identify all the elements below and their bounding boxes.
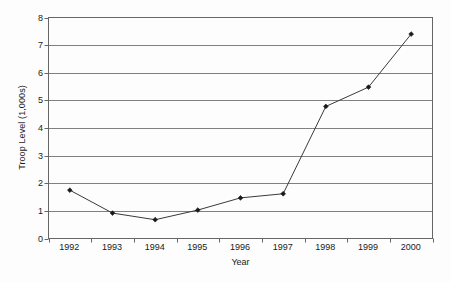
x-tick-label: 1999 [347, 241, 390, 253]
x-tick-label: 1995 [176, 241, 219, 253]
series-line-troop-level [70, 34, 411, 220]
x-tick-label: 1993 [91, 241, 134, 253]
x-axis-title: Year [48, 256, 433, 268]
data-point-marker [153, 217, 158, 222]
axis-ticks [45, 19, 434, 243]
x-axis-tick-labels: 199219931994199519961997199819992000 [48, 241, 433, 255]
x-tick-label: 1997 [261, 241, 304, 253]
x-tick-label: 1998 [304, 241, 347, 253]
series-markers [67, 32, 413, 222]
line-chart: Troop Level (1,000s) 012345678 199219931… [0, 0, 451, 282]
data-point-marker [323, 104, 328, 109]
data-point-marker [238, 195, 243, 200]
plot-area [0, 0, 451, 282]
x-tick-label: 1996 [219, 241, 262, 253]
x-tick-label: 1992 [48, 241, 91, 253]
data-point-marker [281, 191, 286, 196]
gridlines [49, 46, 433, 212]
data-point-marker [67, 188, 72, 193]
x-tick-label: 1994 [133, 241, 176, 253]
x-tick-label: 2000 [389, 241, 432, 253]
